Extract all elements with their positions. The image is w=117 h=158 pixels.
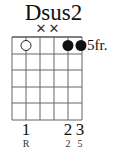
finger-label: 3 <box>76 121 85 139</box>
interval-label: 2 <box>66 138 71 149</box>
finger-label: 2 <box>64 121 73 139</box>
finger-label: 1 <box>22 121 31 139</box>
fretboard-grid <box>0 0 117 158</box>
base-fret-label: 5fr. <box>87 37 107 53</box>
interval-label: R <box>23 138 30 149</box>
finger-dot-icon <box>76 40 87 51</box>
finger-dot-icon <box>63 40 74 51</box>
interval-label: 5 <box>78 138 83 149</box>
open-circle-icon <box>21 41 31 51</box>
